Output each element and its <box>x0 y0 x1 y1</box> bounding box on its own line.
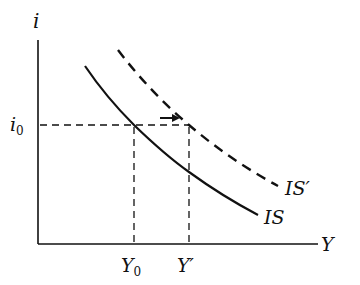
y0-label: Y0 <box>121 254 141 279</box>
is-curve <box>85 66 258 215</box>
y-axis-label: i <box>33 9 39 33</box>
is-shift-diagram: i Y i0 Y0 Y′ IS IS′ <box>0 0 360 285</box>
is-curve-label: IS <box>263 206 285 228</box>
is-prime-curve-label: IS′ <box>284 177 311 199</box>
x-axis-label: Y <box>321 233 336 255</box>
i0-label: i0 <box>10 113 24 138</box>
y-prime-label: Y′ <box>177 254 195 276</box>
is-prime-curve <box>118 50 278 186</box>
